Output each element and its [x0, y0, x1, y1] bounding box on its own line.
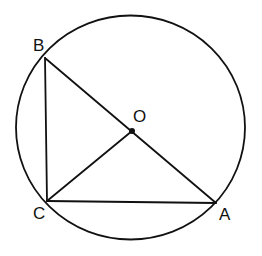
segment-ca [47, 201, 216, 203]
label-point-b: B [33, 36, 44, 55]
label-point-c: C [33, 204, 45, 223]
label-point-o: O [133, 107, 146, 126]
segment-bc [45, 58, 47, 201]
circle-o [16, 16, 245, 240]
label-point-a: A [219, 205, 231, 224]
center-point-o [129, 128, 135, 134]
segment-co [47, 131, 132, 201]
geometry-diagram: ABCO [0, 0, 262, 256]
